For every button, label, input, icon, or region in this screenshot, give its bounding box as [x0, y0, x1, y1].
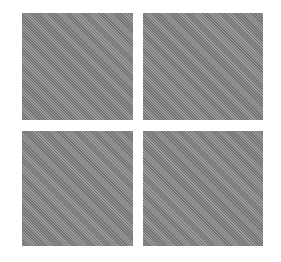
tile-bottom-right	[143, 131, 263, 246]
tile-bottom-left	[22, 131, 133, 246]
tile-top-right	[143, 13, 263, 120]
tile-top-left	[22, 13, 133, 120]
